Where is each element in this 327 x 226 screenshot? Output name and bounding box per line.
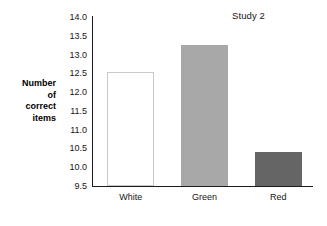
y-axis-tick-label: 12.0 bbox=[52, 87, 87, 97]
y-axis-title-line-2: of bbox=[0, 90, 56, 102]
y-axis-tick-label: 12.5 bbox=[52, 68, 87, 78]
bar-green bbox=[181, 45, 228, 186]
x-axis-line bbox=[92, 186, 313, 187]
y-axis-tick-label: 9.5 bbox=[52, 181, 87, 191]
y-axis-title-line-3: correct bbox=[0, 101, 56, 113]
y-axis-tick-label: 13.5 bbox=[52, 31, 87, 41]
y-axis-tick-label: 13.0 bbox=[52, 50, 87, 60]
y-axis-tick-label: 14.0 bbox=[52, 12, 87, 22]
y-axis-tick-label: 11.0 bbox=[52, 125, 87, 135]
x-axis-category-label-red: Red bbox=[270, 192, 287, 202]
x-axis-category-label-white: White bbox=[119, 192, 142, 202]
plot-area bbox=[92, 17, 313, 186]
y-axis-title: Number of correct items bbox=[0, 78, 56, 124]
x-axis-category-label-green: Green bbox=[192, 192, 217, 202]
bar-chart-figure: Study 2 Number of correct items 9.510.01… bbox=[0, 0, 327, 226]
y-axis-tick-label: 10.5 bbox=[52, 143, 87, 153]
y-axis-title-line-4: items bbox=[0, 113, 56, 125]
y-axis-title-line-1: Number bbox=[0, 78, 56, 90]
y-axis-tick-label: 10.0 bbox=[52, 162, 87, 172]
y-axis-tick-label: 11.5 bbox=[52, 106, 87, 116]
y-axis-tick-labels: 9.510.010.511.011.512.012.513.013.514.0 bbox=[52, 0, 87, 226]
bar-white bbox=[107, 72, 154, 186]
bar-red bbox=[255, 152, 302, 186]
